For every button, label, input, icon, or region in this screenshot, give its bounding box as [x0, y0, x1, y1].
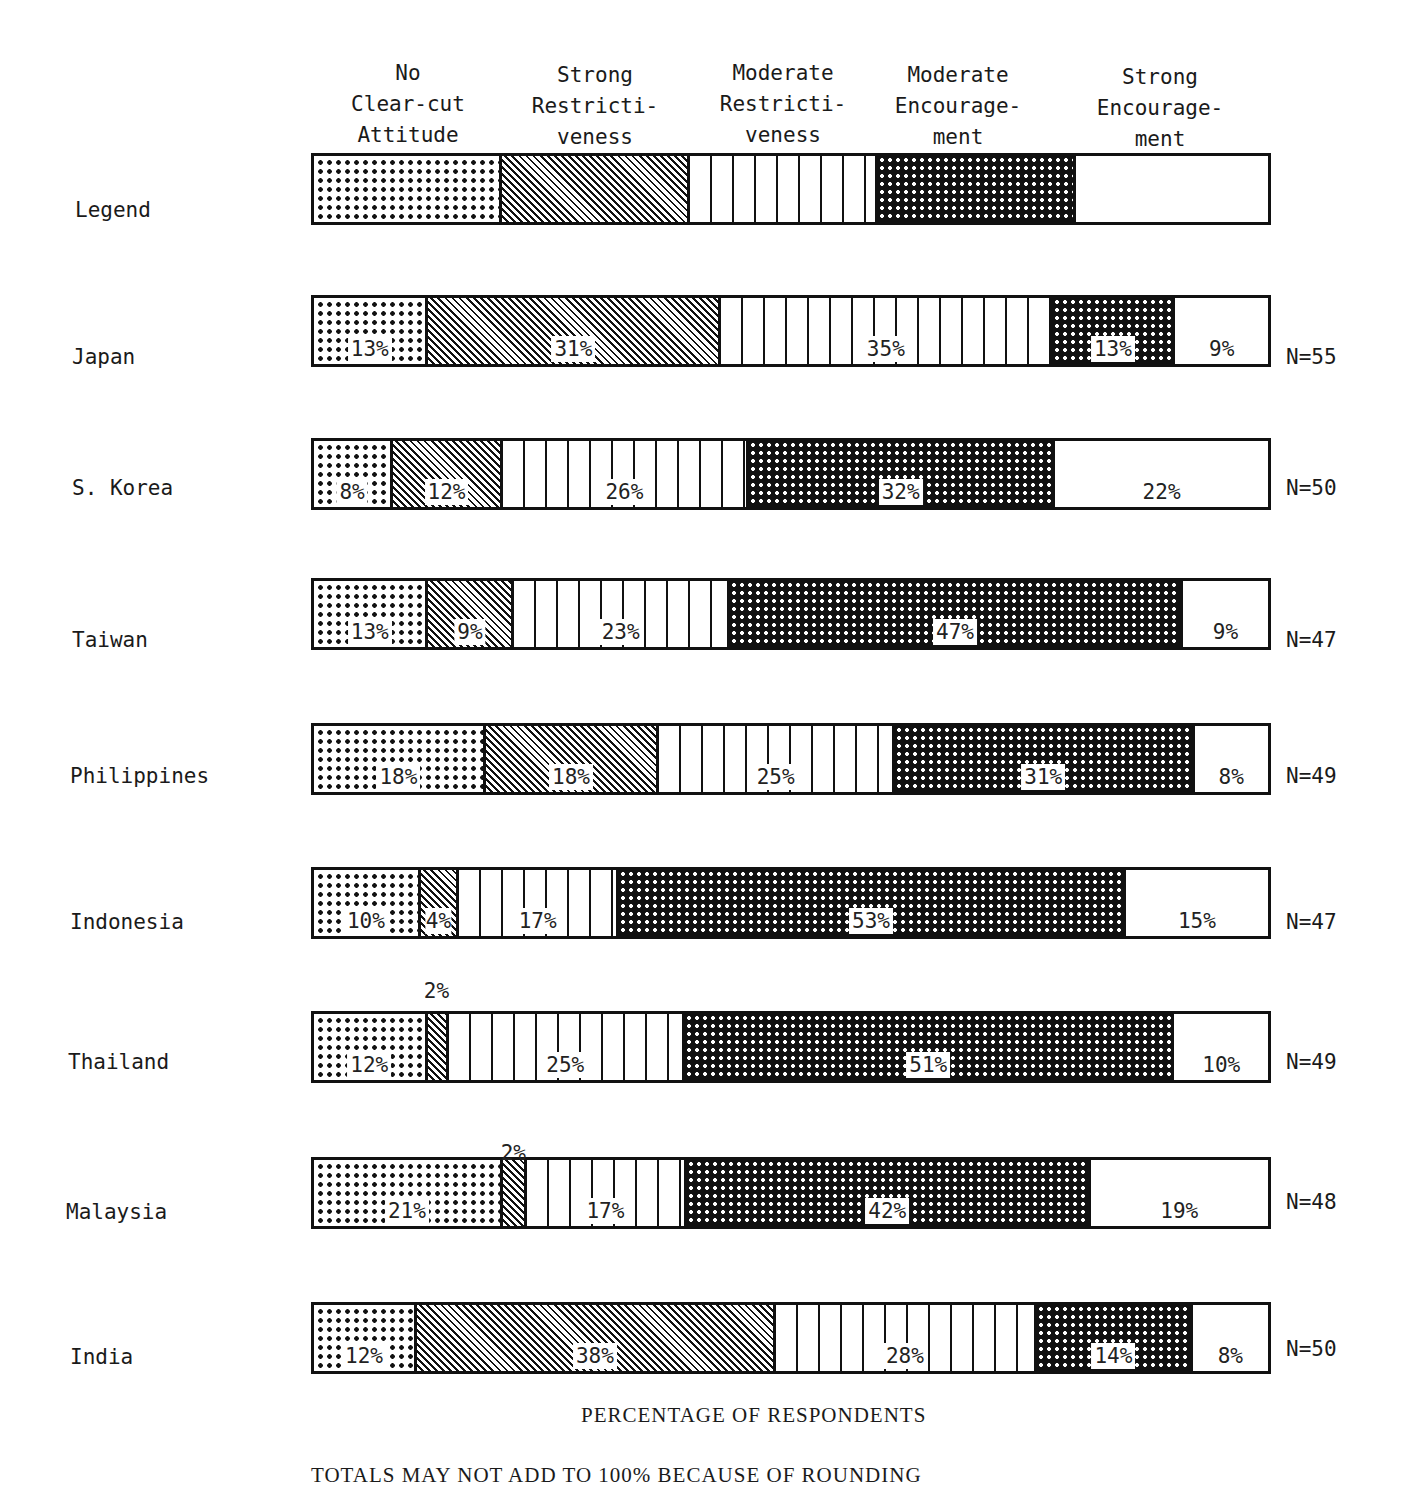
segment-strong-restrictiveness: 2% [503, 1160, 527, 1226]
segment-moderate-encouragement: 32% [749, 441, 1055, 507]
segment-strong-restrictiveness: 9% [428, 581, 514, 647]
segment-value: 42% [865, 1198, 909, 1224]
row-label-india: India [70, 1345, 133, 1369]
segment-moderate-restrictiveness: 23% [514, 581, 730, 647]
legend-swatch-dots [314, 156, 502, 222]
segment-value: 13% [1091, 336, 1135, 362]
segment-strong-encouragement: 22% [1055, 441, 1268, 507]
row-label-malaysia: Malaysia [66, 1200, 167, 1224]
segment-value: 13% [348, 336, 392, 362]
segment-value: 18% [376, 764, 420, 790]
segment-moderate-encouragement: 14% [1037, 1305, 1193, 1371]
segment-value: 19% [1157, 1198, 1201, 1224]
segment-value: 32% [879, 479, 923, 505]
segment-strong-restrictiveness: 31% [428, 298, 721, 364]
segment-value: 10% [344, 908, 388, 934]
segment-no-clear-cut: 21% [314, 1160, 503, 1226]
bar-thailand: 12% 2% 25% 51% 10% [311, 1011, 1271, 1083]
legend-heading-strong-encouragement: Strong Encourage- ment [1060, 62, 1260, 155]
row-label-indonesia: Indonesia [70, 910, 184, 934]
segment-value: 17% [583, 1198, 627, 1224]
segment-value: 21% [385, 1198, 429, 1224]
segment-value: 12% [342, 1343, 386, 1369]
segment-value: 47% [933, 619, 977, 645]
segment-strong-restrictiveness: 2% [428, 1014, 449, 1080]
segment-value: 9% [454, 619, 485, 645]
segment-value: 28% [883, 1343, 927, 1369]
bar-s-korea: 8% 12% 26% 32% 22% [311, 438, 1271, 510]
segment-strong-encouragement: 15% [1126, 870, 1268, 936]
segment-value: 31% [551, 336, 595, 362]
bar-taiwan: 13% 9% 23% 47% 9% [311, 578, 1271, 650]
segment-moderate-restrictiveness: 17% [527, 1160, 687, 1226]
sample-size-malaysia: N=48 [1286, 1190, 1337, 1214]
bar-philippines: 18% 18% 25% 31% 8% [311, 723, 1271, 795]
segment-no-clear-cut: 12% [314, 1305, 417, 1371]
segment-value: 17% [516, 908, 560, 934]
segment-value: 22% [1140, 479, 1184, 505]
segment-moderate-restrictiveness: 25% [449, 1014, 686, 1080]
segment-moderate-restrictiveness: 35% [721, 298, 1053, 364]
segment-value: 9% [1206, 336, 1237, 362]
segment-moderate-restrictiveness: 28% [776, 1305, 1037, 1371]
segment-value: 25% [754, 764, 798, 790]
segment-moderate-restrictiveness: 26% [503, 441, 749, 507]
segment-value: 35% [864, 336, 908, 362]
legend-swatch-vertical [690, 156, 878, 222]
row-label-taiwan: Taiwan [72, 628, 148, 652]
row-label-thailand: Thailand [68, 1050, 169, 1074]
bar-india: 12% 38% 28% 14% 8% [311, 1302, 1271, 1374]
segment-strong-encouragement: 8% [1193, 1305, 1268, 1371]
sample-size-s-korea: N=50 [1286, 476, 1337, 500]
segment-value: 12% [425, 479, 469, 505]
segment-value: 18% [549, 764, 593, 790]
segment-value: 25% [543, 1052, 587, 1078]
sample-size-thailand: N=49 [1286, 1050, 1337, 1074]
segment-value: 10% [1199, 1052, 1243, 1078]
bar-japan: 13% 31% 35% 13% 9% [311, 295, 1271, 367]
segment-value: 53% [849, 908, 893, 934]
segment-strong-restrictiveness: 38% [417, 1305, 776, 1371]
sample-size-india: N=50 [1286, 1337, 1337, 1361]
legend-heading-strong-restrictiveness: Strong Restricti- veness [500, 60, 690, 153]
segment-value: 23% [599, 619, 643, 645]
segment-no-clear-cut: 13% [314, 581, 428, 647]
bar-indonesia: 10% 4% 17% 53% 15% [311, 867, 1271, 939]
segment-value: 12% [347, 1052, 391, 1078]
segment-no-clear-cut: 12% [314, 1014, 428, 1080]
segment-moderate-encouragement: 13% [1053, 298, 1175, 364]
legend-row-label: Legend [75, 198, 151, 222]
row-label-japan: Japan [72, 345, 135, 369]
segment-no-clear-cut: 18% [314, 726, 486, 792]
segment-value: 14% [1091, 1343, 1135, 1369]
segment-value: 51% [906, 1052, 950, 1078]
sample-size-philippines: N=49 [1286, 764, 1337, 788]
footnote: TOTALS MAY NOT ADD TO 100% BECAUSE OF RO… [311, 1463, 922, 1488]
segment-strong-encouragement: 19% [1091, 1160, 1268, 1226]
segment-no-clear-cut: 10% [314, 870, 421, 936]
segment-value: 8% [1215, 1343, 1246, 1369]
sample-size-taiwan: N=47 [1286, 628, 1337, 652]
segment-moderate-encouragement: 42% [687, 1160, 1091, 1226]
segment-moderate-encouragement: 47% [730, 581, 1183, 647]
segment-strong-restrictiveness: 18% [486, 726, 660, 792]
legend-heading-moderate-restrictiveness: Moderate Restricti- veness [688, 58, 878, 151]
segment-strong-restrictiveness: 12% [393, 441, 503, 507]
segment-strong-encouragement: 9% [1183, 581, 1268, 647]
segment-value: 31% [1021, 764, 1065, 790]
segment-moderate-restrictiveness: 17% [459, 870, 619, 936]
sample-size-indonesia: N=47 [1286, 910, 1337, 934]
legend-swatch-dense-dots [878, 156, 1076, 222]
bar-malaysia: 21% 2% 17% 42% 19% [311, 1157, 1271, 1229]
legend-bar [311, 153, 1271, 225]
segment-value: 26% [602, 479, 646, 505]
row-label-s-korea: S. Korea [72, 476, 173, 500]
segment-value: 15% [1175, 908, 1219, 934]
segment-value: 4% [426, 908, 451, 934]
segment-value: 2% [421, 978, 452, 1004]
segment-value: 9% [1210, 619, 1241, 645]
segment-strong-restrictiveness: 4% [421, 870, 459, 936]
x-axis-title: PERCENTAGE OF RESPONDENTS [581, 1403, 926, 1428]
segment-moderate-encouragement: 51% [685, 1014, 1174, 1080]
segment-value: 13% [348, 619, 392, 645]
